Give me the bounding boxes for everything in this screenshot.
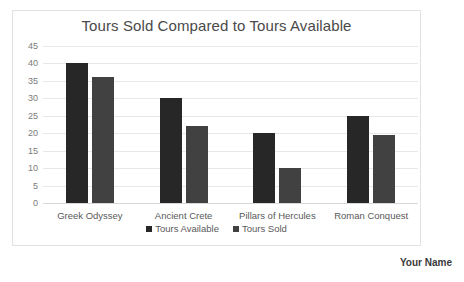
bar bbox=[160, 98, 182, 203]
y-axis-tick-label: 0 bbox=[33, 198, 38, 208]
y-axis-tick-label: 25 bbox=[28, 111, 38, 121]
plot-area: 454035302520151050 Greek OdysseyAncient … bbox=[43, 46, 418, 203]
legend-item[interactable]: Tours Sold bbox=[233, 223, 287, 234]
bar-group bbox=[347, 46, 395, 203]
y-axis-tick-label: 30 bbox=[28, 93, 38, 103]
y-axis-tick-label: 45 bbox=[28, 41, 38, 51]
y-axis-tick-label: 5 bbox=[33, 181, 38, 191]
y-axis-tick-label: 20 bbox=[28, 128, 38, 138]
bar bbox=[186, 126, 208, 203]
bar bbox=[92, 77, 114, 203]
bar bbox=[347, 116, 369, 203]
y-axis-tick-label: 15 bbox=[28, 146, 38, 156]
bar-group bbox=[253, 46, 301, 203]
chart-container: Tours Sold Compared to Tours Available 4… bbox=[12, 10, 421, 246]
bar bbox=[279, 168, 301, 203]
bar bbox=[66, 63, 88, 203]
chart-title: Tours Sold Compared to Tours Available bbox=[13, 17, 420, 34]
y-axis-tick-label: 35 bbox=[28, 76, 38, 86]
bar-group bbox=[160, 46, 208, 203]
gridline bbox=[43, 203, 418, 204]
legend-swatch-icon bbox=[233, 226, 239, 232]
x-axis-tick-label: Roman Conquest bbox=[311, 210, 431, 221]
chart-legend: Tours AvailableTours Sold bbox=[13, 223, 420, 234]
legend-label: Tours Sold bbox=[242, 223, 287, 234]
legend-item[interactable]: Tours Available bbox=[146, 223, 219, 234]
y-axis-tick-label: 40 bbox=[28, 58, 38, 68]
bar-series-layer bbox=[43, 46, 418, 203]
footer-name: Your Name bbox=[400, 257, 452, 268]
bar bbox=[253, 133, 275, 203]
bar bbox=[373, 135, 395, 203]
legend-label: Tours Available bbox=[155, 223, 219, 234]
legend-swatch-icon bbox=[146, 226, 152, 232]
bar-group bbox=[66, 46, 114, 203]
y-axis-tick-label: 10 bbox=[28, 163, 38, 173]
